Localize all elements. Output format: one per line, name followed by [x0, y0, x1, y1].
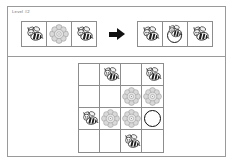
board-cell-r3c1[interactable]: [79, 108, 100, 130]
board-cell-r4c1[interactable]: [79, 130, 100, 152]
board-cell-r2c1[interactable]: [79, 86, 100, 108]
bee-icon: [24, 24, 44, 44]
rule-after-strip: [137, 21, 213, 47]
flower-icon: [143, 87, 163, 107]
rule-before-cell-1[interactable]: [21, 21, 47, 47]
board-cell-r1c4[interactable]: [142, 64, 163, 86]
board-cell-r1c1[interactable]: [79, 64, 100, 86]
board-cell-r3c3[interactable]: [121, 108, 142, 130]
puzzle-board[interactable]: [78, 63, 164, 153]
rule-after-cell-2[interactable]: [162, 21, 188, 47]
arrow-head: [117, 28, 125, 40]
rule-before-cell-3[interactable]: [71, 21, 97, 47]
board-cell-r4c2[interactable]: [100, 130, 121, 152]
board-cell-r1c3[interactable]: [121, 64, 142, 86]
board-cell-r2c4[interactable]: [142, 86, 163, 108]
flower-icon: [121, 87, 141, 107]
rule-row: [8, 20, 225, 48]
bee-icon: [74, 24, 94, 44]
board-cell-r4c4[interactable]: [142, 130, 163, 152]
bee-icon: [100, 65, 120, 85]
board-cell-r2c3[interactable]: [121, 86, 142, 108]
bee-icon: [121, 131, 141, 151]
board-cell-r3c4[interactable]: [142, 108, 163, 130]
goal-ring-icon: [144, 110, 161, 127]
bee-in-hole-icon: [164, 23, 186, 45]
flower-icon: [49, 24, 69, 44]
rule-after-cell-1[interactable]: [137, 21, 163, 47]
rule-panel: Level #2: [8, 7, 225, 57]
level-label: Level #2: [12, 9, 30, 14]
board-cell-r2c2[interactable]: [100, 86, 121, 108]
bee-icon: [140, 24, 160, 44]
bee-icon: [143, 65, 163, 85]
bee-icon: [190, 24, 210, 44]
board-cell-r1c2[interactable]: [100, 64, 121, 86]
flower-icon: [100, 109, 120, 129]
board-panel: [8, 57, 225, 157]
bee-icon: [79, 109, 99, 129]
right-arrow-icon: [109, 28, 125, 41]
rule-after-cell-3[interactable]: [187, 21, 213, 47]
puzzle-screenshot: Level #2: [0, 0, 233, 163]
rule-before-strip: [21, 21, 97, 47]
puzzle-frame: Level #2: [7, 6, 226, 157]
flower-icon: [121, 109, 141, 129]
board-cell-r3c2[interactable]: [100, 108, 121, 130]
board-cell-r4c3[interactable]: [121, 130, 142, 152]
rule-before-cell-2[interactable]: [46, 21, 72, 47]
